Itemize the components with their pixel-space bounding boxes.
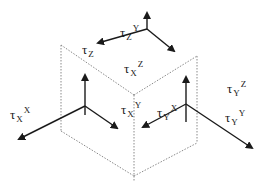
label-tau-z-y: τZY xyxy=(120,24,139,40)
label-tau-y-z: τYZ xyxy=(227,80,246,96)
x-face-arrows xyxy=(19,75,117,139)
label-tau-x-y: τXY xyxy=(121,101,141,117)
label-tau-x-x: τXX xyxy=(10,106,30,122)
arrow-tau-z-y xyxy=(147,29,174,51)
label-tau-x-z: τXZ xyxy=(124,60,143,76)
edge-top-right xyxy=(134,56,197,95)
arrow-tau-x-y xyxy=(85,106,117,128)
edge-bottom-right xyxy=(134,143,197,176)
label-tau-z-x: τZ xyxy=(82,41,94,57)
label-tau-y-x: τYX xyxy=(157,104,177,120)
edge-bottom-left xyxy=(61,131,134,176)
label-tau-y-y: τYY xyxy=(225,109,245,125)
